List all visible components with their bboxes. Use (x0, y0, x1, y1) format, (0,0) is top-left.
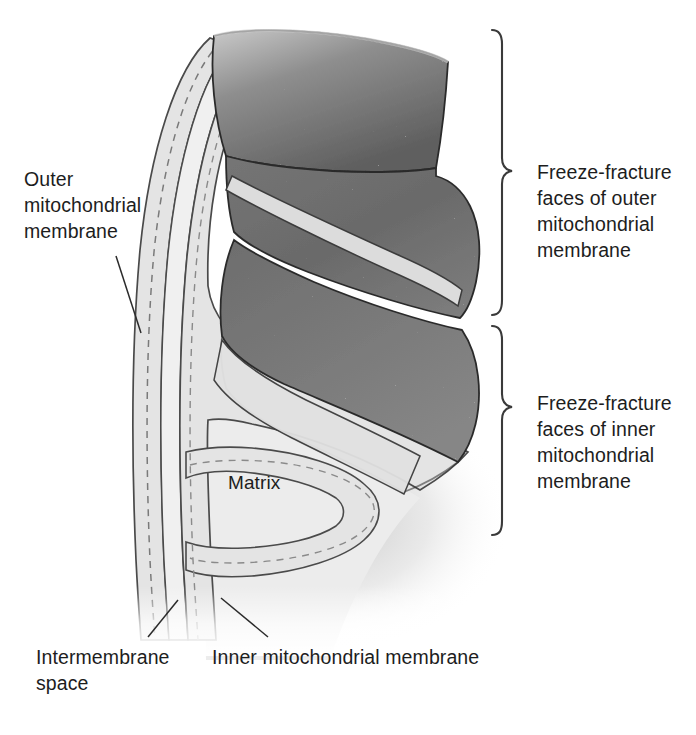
figure-canvas: Outer mitochondrial membrane Freeze-frac… (0, 0, 696, 735)
label-intermembrane-space: Intermembrane space (36, 644, 170, 696)
label-matrix: Matrix (228, 470, 280, 496)
fracture-face-outer-upper (213, 30, 449, 172)
label-freeze-fracture-outer: Freeze-fracture faces of outer mitochond… (537, 159, 672, 263)
label-inner-membrane: Inner mitochondrial membrane (212, 644, 479, 670)
label-outer-membrane: Outer mitochondrial membrane (24, 166, 141, 244)
mitochondrion-diagram (0, 0, 696, 735)
label-freeze-fracture-inner: Freeze-fracture faces of inner mitochond… (537, 390, 672, 494)
outer-membrane-brace (492, 30, 512, 315)
